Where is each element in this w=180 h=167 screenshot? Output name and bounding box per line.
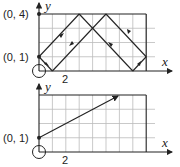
top-x-label: x	[161, 54, 168, 69]
top-point-01	[37, 55, 41, 59]
diagram-canvas: (0, 4) (0, 1) 2 x y (0, 1) 2 x y	[0, 0, 180, 167]
top-chart: (0, 4) (0, 1) 2 x y	[3, 0, 172, 85]
top-point-04	[37, 12, 41, 16]
top-tick-2: 2	[62, 73, 68, 85]
bottom-x-label: x	[161, 135, 168, 150]
bottom-tick-2: 2	[62, 154, 68, 166]
bottom-chart: (0, 1) 2 x y	[3, 79, 172, 166]
top-y-label: y	[43, 0, 51, 13]
bottom-point-01	[37, 136, 41, 140]
top-grid	[39, 14, 155, 71]
bottom-y-label: y	[43, 79, 51, 94]
bottom-label-01: (0, 1)	[3, 132, 29, 144]
top-label-01: (0, 1)	[3, 51, 29, 63]
bottom-grid	[39, 95, 155, 152]
top-label-04: (0, 4)	[3, 8, 29, 20]
